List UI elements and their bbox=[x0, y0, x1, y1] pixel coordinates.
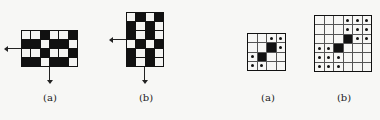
white-cell bbox=[334, 35, 343, 43]
grid-left-a bbox=[21, 30, 78, 67]
dotted-cell bbox=[325, 63, 334, 71]
white-cell bbox=[59, 49, 67, 57]
black-cell bbox=[146, 58, 154, 66]
black-cell bbox=[22, 58, 30, 66]
white-cell bbox=[41, 40, 49, 48]
dotted-cell bbox=[334, 63, 343, 71]
dotted-cell bbox=[248, 53, 257, 61]
black-cell bbox=[146, 31, 154, 39]
white-cell bbox=[50, 31, 58, 39]
white-cell bbox=[363, 44, 372, 52]
white-cell bbox=[50, 49, 58, 57]
white-cell bbox=[334, 16, 343, 24]
white-cell bbox=[31, 49, 39, 57]
black-cell bbox=[127, 22, 135, 30]
white-cell bbox=[41, 58, 49, 66]
white-cell bbox=[258, 43, 267, 51]
dotted-cell bbox=[344, 16, 353, 24]
black-cell bbox=[31, 58, 39, 66]
black-cell bbox=[69, 49, 77, 57]
dotted-cell bbox=[315, 63, 324, 71]
white-cell bbox=[267, 62, 276, 70]
white-cell bbox=[136, 22, 144, 30]
dotted-cell bbox=[277, 43, 286, 51]
dotted-cell bbox=[363, 25, 372, 33]
black-cell bbox=[155, 13, 163, 21]
white-cell bbox=[315, 35, 324, 43]
black-cell bbox=[344, 35, 353, 43]
grid-left-b bbox=[126, 12, 164, 67]
white-cell bbox=[353, 53, 362, 61]
black-cell bbox=[50, 58, 58, 66]
dotted-cell bbox=[325, 44, 334, 52]
black-cell bbox=[41, 49, 49, 57]
dotted-cell bbox=[334, 53, 343, 61]
white-cell bbox=[344, 63, 353, 71]
black-cell bbox=[22, 40, 30, 48]
white-cell bbox=[155, 49, 163, 57]
white-cell bbox=[258, 34, 267, 42]
caption-right-b: (b) bbox=[337, 92, 351, 103]
white-cell bbox=[155, 31, 163, 39]
black-cell bbox=[146, 22, 154, 30]
black-cell bbox=[127, 58, 135, 66]
black-cell bbox=[41, 31, 49, 39]
black-cell bbox=[136, 40, 144, 48]
dotted-cell bbox=[353, 25, 362, 33]
white-cell bbox=[344, 44, 353, 52]
black-cell bbox=[50, 40, 58, 48]
black-cell bbox=[258, 53, 267, 61]
dotted-cell bbox=[344, 25, 353, 33]
black-cell bbox=[69, 31, 77, 39]
black-cell bbox=[59, 40, 67, 48]
black-cell bbox=[334, 44, 343, 52]
black-cell bbox=[59, 58, 67, 66]
caption-left-a: (a) bbox=[43, 92, 57, 103]
dotted-cell bbox=[353, 16, 362, 24]
grid-right-a bbox=[247, 33, 286, 71]
caption-left-b: (b) bbox=[139, 92, 153, 103]
white-cell bbox=[344, 53, 353, 61]
white-cell bbox=[146, 13, 154, 21]
white-cell bbox=[127, 13, 135, 21]
white-cell bbox=[267, 53, 276, 61]
white-cell bbox=[353, 44, 362, 52]
arrow-down-icon bbox=[49, 67, 50, 81]
white-cell bbox=[31, 31, 39, 39]
arrow-left-icon bbox=[112, 39, 126, 40]
white-cell bbox=[325, 16, 334, 24]
white-cell bbox=[363, 53, 372, 61]
white-cell bbox=[277, 53, 286, 61]
black-cell bbox=[146, 49, 154, 57]
white-cell bbox=[248, 43, 257, 51]
dotted-cell bbox=[248, 62, 257, 70]
arrow-down-icon bbox=[144, 67, 145, 81]
white-cell bbox=[136, 31, 144, 39]
grid-right-b bbox=[314, 15, 372, 72]
black-cell bbox=[267, 43, 276, 51]
white-cell bbox=[22, 31, 30, 39]
white-cell bbox=[69, 40, 77, 48]
white-cell bbox=[248, 34, 257, 42]
dotted-cell bbox=[363, 35, 372, 43]
white-cell bbox=[325, 35, 334, 43]
dotted-cell bbox=[363, 16, 372, 24]
black-cell bbox=[136, 13, 144, 21]
white-cell bbox=[334, 25, 343, 33]
white-cell bbox=[59, 31, 67, 39]
black-cell bbox=[31, 40, 39, 48]
white-cell bbox=[353, 63, 362, 71]
white-cell bbox=[127, 40, 135, 48]
dotted-cell bbox=[315, 53, 324, 61]
white-cell bbox=[315, 25, 324, 33]
white-cell bbox=[325, 25, 334, 33]
dotted-cell bbox=[353, 35, 362, 43]
white-cell bbox=[22, 49, 30, 57]
white-cell bbox=[136, 58, 144, 66]
black-cell bbox=[127, 31, 135, 39]
white-cell bbox=[155, 22, 163, 30]
white-cell bbox=[69, 58, 77, 66]
black-cell bbox=[155, 40, 163, 48]
white-cell bbox=[315, 16, 324, 24]
arrow-left-icon bbox=[7, 48, 21, 49]
